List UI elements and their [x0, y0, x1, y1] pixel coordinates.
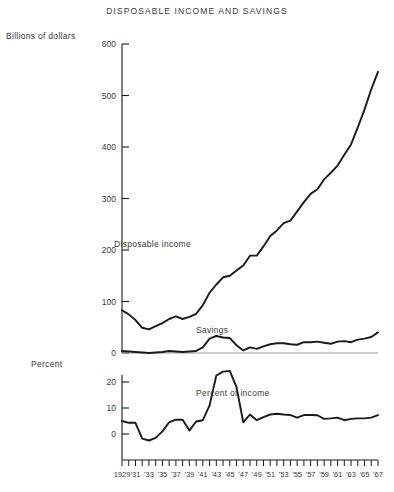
upper-y-axis-ticks	[122, 44, 129, 353]
lower-panel-y-axis-title: Percent	[31, 359, 62, 369]
x-tick-label: '55	[292, 470, 302, 479]
lower-y-axis-tick-labels: 01020	[107, 377, 117, 439]
lower-y-tick-label: 0	[111, 429, 116, 439]
upper-y-tick-label: 0	[111, 348, 116, 358]
lower-y-tick-label: 20	[107, 377, 117, 387]
series-line-percent-of-income	[122, 371, 378, 441]
upper-y-axis-tick-labels: 0100200300400500600	[102, 39, 116, 358]
upper-y-tick-label: 500	[102, 91, 116, 101]
x-tick-label: '57	[306, 470, 316, 479]
x-tick-label: '45	[225, 470, 235, 479]
x-tick-label: '33	[144, 470, 154, 479]
x-tick-label: '67	[373, 470, 383, 479]
lower-y-tick-label: 10	[107, 403, 117, 413]
x-tick-label: '51	[265, 470, 275, 479]
x-tick-label: '37	[171, 470, 181, 479]
upper-panel-y-axis-title: Billions of dollars	[6, 31, 75, 41]
upper-y-tick-label: 300	[102, 194, 116, 204]
series-label-percent-of-income: Percent of income	[196, 388, 270, 398]
x-tick-label: '41	[198, 470, 208, 479]
upper-y-tick-label: 100	[102, 297, 116, 307]
x-tick-label: '61	[333, 470, 343, 479]
series-line-savings	[122, 332, 378, 353]
x-axis-tick-labels: 1929'31'33'35'37'39'41'43'45'47'49'51'53…	[114, 470, 383, 479]
series-label-savings: Savings	[196, 325, 228, 335]
upper-y-tick-label: 400	[102, 142, 116, 152]
x-tick-label: '63	[346, 470, 356, 479]
chart-figure: DISPOSABLE INCOME AND SAVINGS Billions o…	[0, 0, 394, 492]
x-tick-label: 1929	[114, 470, 131, 479]
x-tick-label: '49	[252, 470, 262, 479]
chart-title: DISPOSABLE INCOME AND SAVINGS	[0, 6, 394, 16]
x-tick-label: '53	[279, 470, 289, 479]
lower-y-axis-ticks	[122, 382, 129, 434]
x-tick-label: '47	[238, 470, 248, 479]
x-tick-label: '31	[131, 470, 141, 479]
series-label-disposable-income: Disposable income	[114, 239, 191, 249]
upper-y-tick-label: 600	[102, 39, 116, 49]
x-tick-label: '35	[158, 470, 168, 479]
x-tick-label: '43	[211, 470, 221, 479]
series-line-disposable-income	[122, 72, 378, 330]
chart-plot-area: 0100200300400500600 01020 1929'31'33'35'…	[0, 0, 394, 492]
x-tick-label: '65	[360, 470, 370, 479]
x-tick-label: '59	[319, 470, 329, 479]
x-axis-ticks	[122, 460, 378, 466]
upper-panel: 0100200300400500600	[102, 39, 378, 358]
x-tick-label: '39	[184, 470, 194, 479]
